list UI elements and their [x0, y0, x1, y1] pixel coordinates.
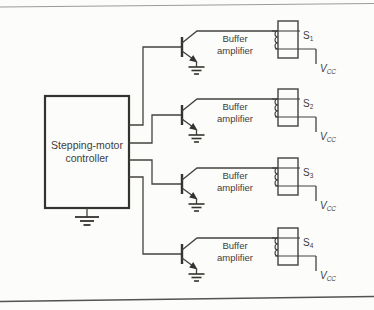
top-rule — [0, 4, 374, 8]
channel-1: Buffer amplifier S1 VCC — [182, 21, 336, 75]
ground-icon — [75, 208, 99, 225]
figure-page: Stepping-motor controller Buffer amplifi… — [0, 0, 374, 310]
vcc-label: VCC — [320, 63, 336, 75]
buffer-amplifier-label-line1: Buffer — [222, 240, 247, 251]
wire-channel-1 — [129, 47, 181, 125]
switch-label: S1 — [303, 30, 314, 42]
circuit-diagram: Stepping-motor controller Buffer amplifi… — [0, 0, 374, 310]
vcc-label: VCC — [320, 131, 336, 143]
ground-icon — [189, 62, 205, 75]
vcc-label: VCC — [320, 200, 336, 212]
ground-icon — [189, 269, 205, 282]
channel-2: Buffer amplifier S2 VCC — [182, 89, 336, 143]
buffer-amplifier-label-line1: Buffer — [222, 101, 247, 112]
wire-channel-3 — [129, 160, 181, 184]
controller-label-line2: controller — [65, 152, 109, 164]
controller-label-line1: Stepping-motor — [51, 139, 123, 151]
channel-4: Buffer amplifier S4 VCC — [182, 228, 336, 282]
bottom-rule — [0, 297, 374, 302]
channel-3: Buffer amplifier S3 VCC — [182, 158, 336, 212]
buffer-amplifier-label-line2: amplifier — [217, 182, 253, 193]
buffer-amplifier-label-line2: amplifier — [217, 113, 253, 124]
switch-label: S2 — [303, 98, 314, 110]
buffer-amplifier-label-line2: amplifier — [217, 252, 253, 263]
ground-icon — [189, 199, 205, 212]
buffer-amplifier-label-line1: Buffer — [222, 33, 247, 44]
wire-channel-4 — [129, 177, 181, 254]
vcc-label: VCC — [320, 270, 336, 282]
ground-icon — [189, 130, 205, 143]
buffer-amplifier-label-line1: Buffer — [222, 170, 247, 181]
stepping-motor-controller-box: Stepping-motor controller — [45, 96, 129, 225]
wire-channel-2 — [129, 115, 181, 143]
switch-label: S3 — [303, 167, 314, 179]
buffer-amplifier-label-line2: amplifier — [217, 45, 253, 56]
switch-label: S4 — [303, 237, 314, 249]
